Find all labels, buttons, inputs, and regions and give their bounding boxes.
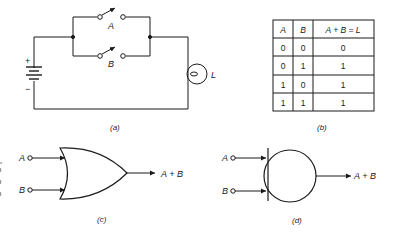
switch-a-label: A [107,21,114,31]
or-gate-icon [28,148,155,199]
table-cell: 1 [301,98,306,108]
gate-c-input-b: B [19,185,25,195]
gate-d-output: A + B [353,171,376,181]
table-cell: 1 [281,80,286,90]
header-a: A [279,25,286,35]
header-output: A + B = L [324,25,360,35]
table-cell: 0 [281,61,286,71]
switch-b-label: B [108,59,114,69]
caption-b: (b) [317,123,327,132]
gate-d-input-a: A [221,153,228,163]
gate-c-output: A + B [160,169,183,179]
wire-left-lower [34,81,188,109]
battery-minus-label: − [25,84,30,94]
or-symbol-circle-icon [231,148,351,202]
battery-plus-label: + [25,56,30,66]
battery-icon [26,67,42,79]
caption-c: (c) [97,215,107,224]
or-logic-figure: A B + − L (a) A B A + B = L 0 0 0 0 1 1 … [0,0,393,235]
switch-b [98,47,126,58]
wire-right [150,37,188,65]
table-cell: 1 [341,80,346,90]
table-cell: 0 [281,43,286,53]
table-cell: 0 [301,43,306,53]
lamp-icon [187,64,207,84]
junction-right [148,35,151,38]
lamp-label: L [211,70,216,80]
gate-d-input-b: B [222,186,228,196]
gate-c-input-a: A [18,153,25,163]
table-cell: 1 [301,61,306,71]
caption-d: (d) [292,216,302,225]
table-cell: 1 [341,98,346,108]
junction-left [71,35,74,38]
table-cell: 1 [341,61,346,71]
switch-a [98,8,126,19]
panel-a-circuit [26,8,207,109]
truth-table-header: A B A + B = L [279,25,361,35]
caption-a: (a) [110,123,120,132]
table-cell: 1 [281,98,286,108]
header-b: B [300,25,306,35]
table-cell: 0 [341,43,346,53]
table-cell: 0 [301,80,306,90]
clipped-edge-marks [0,163,2,196]
